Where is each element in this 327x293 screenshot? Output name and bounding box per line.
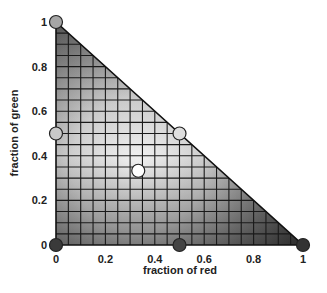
x-tick-label: 0.2 [98,253,113,265]
y-tick-label: 0.8 [32,61,47,73]
y-axis-label: fraction of green [8,89,20,176]
data-point-marker [173,239,186,252]
data-point-marker [297,239,310,252]
x-tick-label: 0 [53,253,59,265]
x-tick-label: 0.8 [246,253,261,265]
data-point-marker [173,127,186,140]
y-tick-label: 0.4 [32,150,48,162]
y-axis-ticks: 00.20.40.60.81 [32,16,48,251]
data-point-marker [132,164,145,177]
data-point-marker [50,16,63,29]
y-tick-label: 0.6 [32,105,47,117]
x-tick-label: 1 [300,253,306,265]
y-tick-label: 1 [41,16,47,28]
simplex-chart: 00.20.40.60.81 00.20.40.60.81 fraction o… [0,0,327,293]
data-point-marker [50,127,63,140]
x-axis-label: fraction of red [143,264,217,276]
y-tick-label: 0 [41,239,47,251]
y-tick-label: 0.2 [32,194,47,206]
data-point-marker [50,239,63,252]
